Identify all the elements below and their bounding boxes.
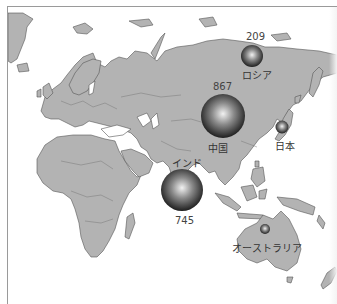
edge-shadow (329, 7, 337, 304)
india-label: インド (172, 159, 202, 169)
bubble-russia (241, 45, 263, 67)
bubble-india (161, 169, 203, 211)
china-value: 867 (213, 82, 232, 92)
bubble-china (201, 94, 245, 138)
japan-label: 日本 (275, 142, 295, 152)
australia-label: オーストラリア (232, 244, 302, 254)
india-value: 745 (175, 216, 194, 226)
map-frame: 209 ロシア 867 中国 日本 インド 745 オーストラリア (7, 6, 337, 304)
bubble-australia (260, 224, 270, 234)
china-label: 中国 (208, 144, 228, 154)
russia-label: ロシア (242, 71, 272, 81)
russia-value: 209 (246, 32, 265, 42)
world-map (8, 7, 337, 304)
bubble-japan (276, 121, 289, 134)
